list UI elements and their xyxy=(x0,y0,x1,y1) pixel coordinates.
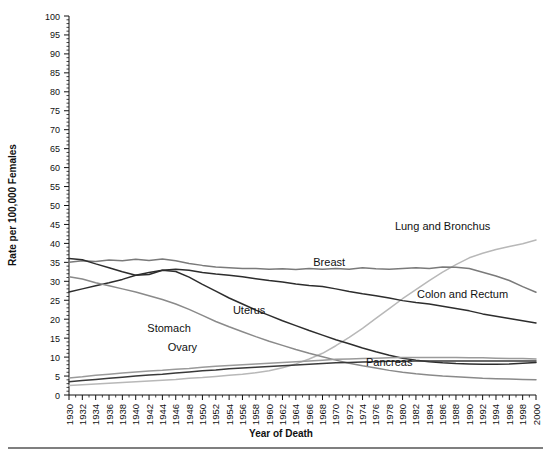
x-tick-label: 1984 xyxy=(424,404,435,425)
y-tick-label: 70 xyxy=(50,125,60,135)
x-tick-label: 1948 xyxy=(184,404,195,425)
x-tick-label: 1972 xyxy=(344,404,355,425)
y-tick-label: 40 xyxy=(50,239,60,249)
y-tick-label: 90 xyxy=(50,49,60,59)
x-tick-label: 1952 xyxy=(210,404,221,425)
series-labels: Lung and BronchusBreastColon and RectumU… xyxy=(147,220,508,368)
y-tick-label: 45 xyxy=(50,220,60,230)
x-tick-label: 1976 xyxy=(370,404,381,425)
y-tick-label: 60 xyxy=(50,163,60,173)
x-tick-label: 1940 xyxy=(130,404,141,425)
x-tick-label: 1936 xyxy=(104,404,115,425)
x-tick-label: 1992 xyxy=(477,404,488,425)
y-tick-label: 55 xyxy=(50,182,60,192)
x-axis-title: Year of Death xyxy=(249,428,313,439)
x-tick-label: 1954 xyxy=(224,404,235,425)
x-tick-label: 1996 xyxy=(504,404,515,425)
x-tick-label: 1982 xyxy=(410,404,421,425)
x-tick-label: 1932 xyxy=(77,404,88,425)
y-tick-label: 15 xyxy=(50,334,60,344)
x-tick-label: 1966 xyxy=(304,404,315,425)
y-tick-label: 35 xyxy=(50,258,60,268)
x-tick-label: 1990 xyxy=(464,404,475,425)
series-lines xyxy=(69,240,536,386)
y-tick-label: 30 xyxy=(50,277,60,287)
y-tick-label: 100 xyxy=(45,12,60,22)
y-tick-label: 95 xyxy=(50,30,60,40)
x-tick-label: 1960 xyxy=(264,404,275,425)
x-axis: 1930193219341936193819401942194419461948… xyxy=(64,395,542,425)
series-label-breast: Breast xyxy=(313,256,345,268)
x-tick-label: 1942 xyxy=(144,404,155,425)
x-tick-label: 1934 xyxy=(90,404,101,425)
y-axis-title: Rate per 100,000 Females xyxy=(7,144,18,266)
x-tick-label: 1968 xyxy=(317,404,328,425)
x-tick-label: 1998 xyxy=(517,404,528,425)
y-tick-label: 20 xyxy=(50,315,60,325)
x-tick-label: 1950 xyxy=(197,404,208,425)
series-line-uterus xyxy=(69,259,536,365)
series-label-uterus: Uterus xyxy=(233,304,266,316)
x-tick-label: 1956 xyxy=(237,404,248,425)
x-tick-label: 1964 xyxy=(290,404,301,425)
x-tick-label: 1988 xyxy=(450,404,461,425)
x-tick-label: 1944 xyxy=(157,404,168,425)
x-tick-label: 1930 xyxy=(64,404,75,425)
series-label-lung-and-bronchus: Lung and Bronchus xyxy=(395,220,491,232)
y-tick-label: 65 xyxy=(50,144,60,154)
y-tick-label: 25 xyxy=(50,296,60,306)
x-tick-label: 2000 xyxy=(531,404,542,425)
x-tick-label: 1958 xyxy=(250,404,261,425)
x-tick-label: 1962 xyxy=(277,404,288,425)
y-tick-label: 85 xyxy=(50,68,60,78)
x-tick-label: 1986 xyxy=(437,404,448,425)
x-tick-label: 1946 xyxy=(170,404,181,425)
y-tick-label: 80 xyxy=(50,87,60,97)
x-tick-label: 1970 xyxy=(330,404,341,425)
series-label-ovary: Ovary xyxy=(168,341,198,353)
y-tick-label: 10 xyxy=(50,353,60,363)
x-tick-label: 1994 xyxy=(490,404,501,425)
x-tick-label: 1938 xyxy=(117,404,128,425)
y-tick-label: 50 xyxy=(50,201,60,211)
cancer-mortality-chart: 0510152025303540455055606570758085909510… xyxy=(0,0,551,452)
series-label-stomach: Stomach xyxy=(147,322,190,334)
series-label-pancreas: Pancreas xyxy=(366,356,413,368)
x-tick-label: 1978 xyxy=(384,404,395,425)
chart-svg: 0510152025303540455055606570758085909510… xyxy=(0,0,551,452)
x-tick-label: 1980 xyxy=(397,404,408,425)
y-tick-label: 75 xyxy=(50,106,60,116)
y-tick-label: 0 xyxy=(55,391,60,401)
y-tick-label: 5 xyxy=(55,372,60,382)
y-axis: 0510152025303540455055606570758085909510… xyxy=(45,12,69,401)
x-tick-label: 1974 xyxy=(357,404,368,425)
series-label-colon-and-rectum: Colon and Rectum xyxy=(417,288,508,300)
